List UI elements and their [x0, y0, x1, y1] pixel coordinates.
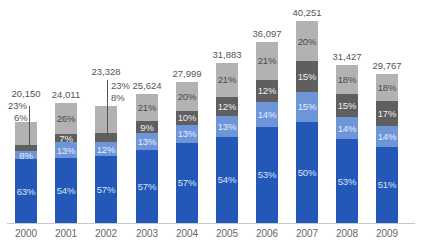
- segment-4: 18%: [336, 65, 358, 93]
- bar-2000: 63%8%: [15, 122, 37, 223]
- segment-value-label: 15%: [298, 101, 316, 112]
- segment-1: 50%: [296, 122, 318, 223]
- segment-4: [95, 106, 117, 133]
- segment-4: 21%: [136, 94, 158, 121]
- segment-value-label: 53%: [258, 169, 276, 180]
- segment-2: 13%: [55, 142, 77, 158]
- segment-value-label: 63%: [17, 186, 35, 197]
- total-label: 23,328: [76, 66, 136, 77]
- segment-1: 51%: [376, 147, 398, 223]
- segment-value-label: 14%: [378, 131, 396, 142]
- callout-label: 6%: [14, 112, 28, 123]
- total-label: 29,767: [357, 60, 417, 71]
- callout-leader-line: [107, 80, 108, 139]
- total-label: 24,011: [36, 89, 96, 100]
- x-axis-tick-label: 2005: [207, 228, 247, 239]
- segment-value-label: 51%: [378, 179, 396, 190]
- segment-2: 14%: [376, 126, 398, 147]
- x-axis-tick-label: 2009: [367, 228, 407, 239]
- segment-3: 7%: [55, 134, 77, 142]
- segment-value-label: 13%: [138, 136, 156, 147]
- segment-value-label: 57%: [97, 184, 115, 195]
- segment-1: 53%: [256, 127, 278, 223]
- segment-1: 63%: [15, 159, 37, 223]
- segment-3: 10%: [176, 111, 198, 125]
- segment-value-label: 20%: [298, 36, 316, 47]
- segment-value-label: 7%: [59, 133, 72, 144]
- bar-2008: 53%14%15%18%: [336, 65, 358, 223]
- segment-1: 57%: [176, 143, 198, 223]
- total-label: 27,999: [157, 68, 217, 79]
- segment-value-label: 20%: [178, 91, 196, 102]
- segment-value-label: 26%: [57, 113, 75, 124]
- segment-4: 21%: [256, 42, 278, 80]
- segment-3: [15, 145, 37, 151]
- segment-3: 15%: [296, 61, 318, 91]
- callout-label: 8%: [111, 92, 125, 103]
- segment-value-label: 13%: [218, 121, 236, 132]
- segment-value-label: 15%: [298, 71, 316, 82]
- x-axis-tick-label: 2007: [287, 228, 327, 239]
- total-label: 36,097: [237, 28, 297, 39]
- bar-2006: 53%14%12%21%: [256, 42, 278, 223]
- bar-2002: 57%12%: [95, 106, 117, 223]
- x-axis-tick-label: 2008: [327, 228, 367, 239]
- callout-label: 23%: [8, 100, 27, 111]
- total-label: 40,251: [277, 7, 337, 18]
- segment-3: 9%: [136, 121, 158, 133]
- segment-value-label: 54%: [57, 185, 75, 196]
- segment-value-label: 21%: [218, 74, 236, 85]
- segment-value-label: 14%: [258, 109, 276, 120]
- segment-value-label: 10%: [178, 112, 196, 123]
- segment-value-label: 13%: [57, 145, 75, 156]
- segment-3: 12%: [256, 80, 278, 102]
- segment-2: 13%: [216, 116, 238, 137]
- segment-2: 13%: [136, 133, 158, 150]
- segment-2: 14%: [336, 117, 358, 139]
- segment-2: 14%: [256, 102, 278, 127]
- segment-4: 21%: [216, 63, 238, 97]
- x-axis-tick-label: 2000: [6, 228, 46, 239]
- segment-value-label: 14%: [338, 123, 356, 134]
- segment-2: 12%: [95, 142, 117, 156]
- segment-value-label: 57%: [138, 181, 156, 192]
- segment-value-label: 50%: [298, 167, 316, 178]
- segment-value-label: 13%: [178, 128, 196, 139]
- segment-value-label: 12%: [218, 101, 236, 112]
- segment-value-label: 54%: [218, 174, 236, 185]
- segment-value-label: 18%: [378, 82, 396, 93]
- bar-2005: 54%13%12%21%: [216, 63, 238, 223]
- segment-2: 15%: [296, 92, 318, 122]
- segment-4: 18%: [376, 74, 398, 101]
- stacked-bar-chart: 63%8%20,15023%6%200054%13%7%26%24,011200…: [0, 0, 421, 246]
- total-label: 25,624: [117, 80, 177, 91]
- bar-2007: 50%15%15%20%: [296, 21, 318, 223]
- segment-1: 57%: [95, 156, 117, 223]
- segment-1: 54%: [216, 137, 238, 223]
- x-axis-tick-label: 2002: [86, 228, 126, 239]
- segment-value-label: 9%: [140, 122, 153, 133]
- segment-1: 54%: [55, 158, 77, 223]
- segment-4: [15, 122, 37, 145]
- x-axis-tick-label: 2004: [167, 228, 207, 239]
- segment-value-label: 21%: [138, 102, 156, 113]
- bar-2001: 54%13%7%26%: [55, 103, 77, 223]
- segment-value-label: 17%: [378, 108, 396, 119]
- segment-value-label: 21%: [258, 55, 276, 66]
- x-axis-tick-label: 2006: [247, 228, 287, 239]
- segment-4: 20%: [296, 21, 318, 61]
- x-axis-tick-label: 2003: [127, 228, 167, 239]
- segment-value-label: 12%: [258, 85, 276, 96]
- segment-2: 13%: [176, 125, 198, 143]
- segment-3: [95, 133, 117, 142]
- segment-value-label: 12%: [97, 144, 115, 155]
- bar-2009: 51%14%17%18%: [376, 74, 398, 223]
- segment-3: 15%: [336, 94, 358, 118]
- bar-2004: 57%13%10%20%: [176, 82, 198, 223]
- segment-4: 26%: [55, 103, 77, 134]
- segment-value-label: 57%: [178, 177, 196, 188]
- x-axis-line: [7, 223, 415, 224]
- segment-1: 53%: [336, 139, 358, 223]
- segment-4: 20%: [176, 82, 198, 110]
- segment-value-label: 53%: [338, 176, 356, 187]
